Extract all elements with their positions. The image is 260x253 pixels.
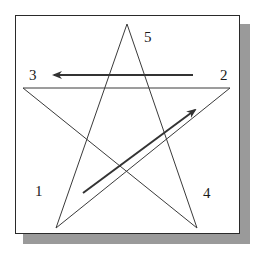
- star-edge-4-5: [127, 24, 197, 228]
- star-edge-5-1: [56, 24, 127, 228]
- star-edge-3-4: [23, 88, 197, 228]
- point-label-2: 2: [220, 68, 228, 83]
- point-label-1: 1: [35, 184, 43, 199]
- star-edges: [23, 24, 230, 228]
- direction-arrow-1-to-2: [83, 110, 195, 193]
- point-label-4: 4: [203, 186, 211, 201]
- point-label-3: 3: [29, 68, 37, 83]
- point-label-5: 5: [144, 30, 152, 45]
- star-edge-1-2: [56, 88, 230, 228]
- pentagram-diagram: [0, 0, 260, 253]
- direction-arrows: [54, 75, 195, 193]
